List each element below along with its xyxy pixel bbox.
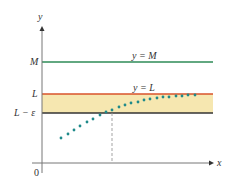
sequence-point (181, 95, 184, 98)
origin-label: 0 (34, 168, 39, 178)
sequence-point (118, 106, 121, 109)
x-axis-label: x (217, 158, 221, 168)
sequence-point (73, 129, 76, 132)
y-equals-m-label: y = M (132, 51, 157, 61)
l-minus-epsilon-label: L − ε (14, 108, 35, 118)
sequence-point (86, 121, 89, 124)
sequence-point (194, 94, 197, 97)
sequence-point (168, 96, 171, 99)
sequence-point (67, 133, 70, 136)
sequence-point (162, 96, 165, 99)
sequence-point (175, 95, 178, 98)
epsilon-band (42, 94, 213, 113)
sequence-point (99, 114, 102, 117)
sequence-point (130, 102, 133, 105)
x-axis-arrow-icon (209, 161, 214, 166)
sequence-point (79, 125, 82, 128)
y-equals-l-label: y = L (133, 83, 155, 93)
sequence-point (187, 94, 190, 97)
sequence-point (137, 101, 140, 104)
y-axis-arrow-icon (40, 26, 45, 31)
sequence-point (105, 111, 108, 114)
y-axis-label: y (38, 12, 42, 22)
l-axis-label: L (32, 89, 38, 99)
sequence-point (156, 97, 159, 100)
sequence-point (124, 104, 127, 107)
m-axis-label: M (30, 57, 38, 67)
sequence-point (111, 109, 114, 112)
sequence-point (60, 137, 63, 140)
sequence-point (92, 118, 95, 121)
sequence-point (143, 99, 146, 102)
limit-sequence-diagram: y x 0 M L L − ε y = M y = L (0, 0, 232, 191)
sequence-point (149, 98, 152, 101)
